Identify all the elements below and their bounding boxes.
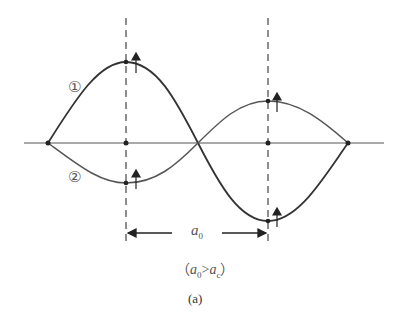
- curve-2-label: ②: [68, 168, 81, 186]
- up-arrow-icons: [132, 53, 281, 227]
- figure-caption: (a): [188, 291, 202, 307]
- paren-open: （: [176, 262, 190, 277]
- curve-1-label: ①: [68, 78, 81, 96]
- dimension-symbol: a: [191, 222, 199, 238]
- curve-1: [48, 62, 348, 221]
- curve-2: [48, 101, 348, 183]
- paren-close: ）: [220, 262, 234, 277]
- condition-label: （a0>ac）: [176, 258, 234, 280]
- condition-lhs: a: [190, 262, 197, 277]
- dimension-subscript: 0: [199, 231, 204, 241]
- dimension-label: a0: [191, 222, 203, 241]
